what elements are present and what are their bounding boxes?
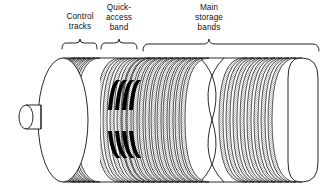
label-control-tracks-line-2: tracks [69, 22, 91, 31]
label-quick-access-line-1: Quick- [107, 3, 131, 12]
label-control-tracks-line-1: Control [66, 12, 93, 21]
label-main-storage-line-1: Main [200, 3, 218, 12]
label-main-storage-line-2: storage [195, 13, 223, 22]
label-quick-access-line-2: access [106, 13, 132, 22]
label-quick-access-band: Quick- access band [106, 3, 132, 32]
drum-axle-shaft [19, 105, 41, 129]
magnetic-drum-diagram: Control tracks Quick- access band Main s… [0, 0, 330, 193]
figure-root: Control tracks Quick- access band Main s… [0, 0, 330, 193]
label-main-storage-line-3: bands [198, 23, 221, 32]
drum-left-end-face [38, 58, 88, 182]
label-quick-access-line-3: band [110, 23, 129, 32]
label-control-tracks: Control tracks [66, 12, 93, 31]
